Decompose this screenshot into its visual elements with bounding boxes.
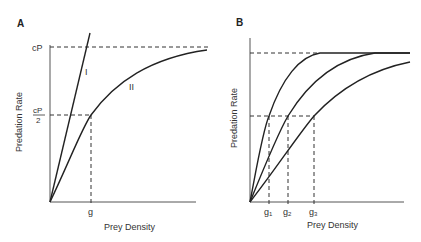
panel-b-curve-2 [250, 53, 410, 202]
panel-a-label: A [17, 18, 24, 29]
diagram-canvas: A I II cP cP 2 g Prey Density Predation … [0, 0, 421, 242]
panel-b-x-label: Prey Density [307, 220, 359, 230]
panel-b-x-tick-g2: g2 [283, 207, 292, 217]
panel-a-curve-i-label: I [85, 67, 88, 77]
panel-b-x-tick-g3: g3 [309, 207, 318, 217]
panel-a-curve-ii-label: II [129, 82, 134, 92]
panel-a-y-tick-half-den: 2 [36, 116, 41, 125]
panel-a-x-label: Prey Density [104, 222, 156, 232]
panel-b: B g1 g2 g3 Prey Density Predation Rate [229, 17, 410, 230]
panel-a-y-tick-half-num: cP [33, 106, 42, 115]
panel-b-x-tick-g1: g1 [264, 207, 273, 217]
panel-b-label: B [236, 17, 243, 28]
panel-a-x-tick-g: g [88, 207, 93, 217]
panel-a-y-tick-cp: cP [32, 43, 43, 53]
panel-b-curve-1 [250, 53, 410, 202]
panel-a: A I II cP cP 2 g Prey Density Predation … [14, 18, 208, 232]
panel-a-curve-i [50, 33, 90, 202]
panel-b-curve-3 [250, 62, 410, 202]
panel-b-y-label: Predation Rate [229, 88, 239, 148]
panel-a-y-label: Predation Rate [14, 92, 24, 152]
panel-a-curve-ii [50, 50, 207, 202]
